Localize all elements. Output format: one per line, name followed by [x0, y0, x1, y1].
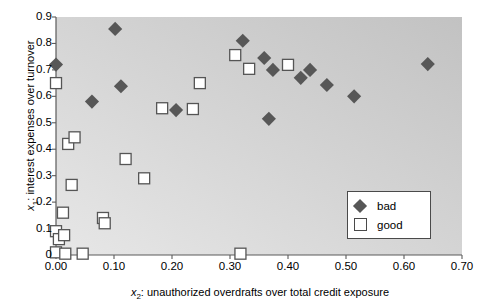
legend-label-good: good — [377, 219, 403, 231]
y-tick-label: 0 — [18, 249, 52, 261]
data-point-good — [194, 78, 205, 89]
x-axis-desc: : unauthorized overdrafts over total cre… — [141, 286, 389, 298]
data-point-good — [99, 218, 110, 229]
x-axis-title: x2: unauthorized overdrafts over total c… — [56, 286, 464, 301]
x-tick-label: 0.20 — [142, 260, 202, 272]
data-point-good — [139, 173, 150, 184]
legend-label-bad: bad — [377, 200, 396, 212]
legend: bad good — [347, 191, 431, 239]
y-axis-subscript: 1 — [31, 201, 40, 205]
y-axis-desc: : interest expenses over turnover — [24, 41, 36, 201]
data-point-good — [51, 78, 62, 89]
legend-item-good: good — [354, 215, 430, 234]
y-axis-var: x — [24, 205, 36, 211]
data-point-good — [57, 207, 68, 218]
data-point-good — [77, 248, 88, 259]
x-tick-label: 0.30 — [200, 260, 260, 272]
x-tick-label: 0.40 — [258, 260, 318, 272]
x-tick-label: 0.50 — [316, 260, 376, 272]
open-square-icon — [354, 218, 367, 231]
x-tick-label: 0.00 — [26, 260, 86, 272]
data-point-good — [157, 103, 168, 114]
data-point-good — [66, 179, 77, 190]
x-tick-label: 0.60 — [374, 260, 434, 272]
data-point-good — [120, 154, 131, 165]
data-point-good — [187, 104, 198, 115]
legend-item-bad: bad — [354, 196, 430, 215]
x-tick-label: 0.10 — [84, 260, 144, 272]
data-point-good — [235, 248, 246, 259]
scatter-chart: 00.10.20.30.40.50.60.70.80.9 0.000.100.2… — [0, 0, 484, 307]
data-point-good — [244, 63, 255, 74]
data-point-good — [230, 50, 241, 61]
x-tick-label: 0.70 — [432, 260, 484, 272]
data-point-good — [59, 230, 70, 241]
filled-diamond-icon — [353, 198, 367, 212]
data-point-good — [60, 248, 71, 259]
data-point-good — [69, 132, 80, 143]
data-point-good — [283, 59, 294, 70]
y-axis-title: x1: interest expenses over turnover — [24, 16, 39, 236]
